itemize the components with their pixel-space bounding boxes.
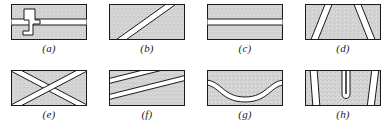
figure-row-top: (a): [0, 0, 391, 66]
panel-h-svg: [305, 70, 381, 106]
panel-g-diagram: [207, 70, 283, 106]
figure-panel-e: (e): [0, 66, 98, 132]
panel-g-label: (g): [196, 108, 294, 121]
panel-b-diagram: [109, 4, 185, 40]
panel-f-label: (f): [98, 108, 196, 121]
panel-a-label: (a): [0, 42, 98, 55]
figure-root: (a): [0, 0, 391, 132]
figure-panel-d: (d): [294, 0, 391, 66]
panel-b-svg: [109, 4, 185, 40]
figure-panel-b: (b): [98, 0, 196, 66]
panel-e-label: (e): [0, 108, 98, 121]
panel-e-svg: [11, 70, 87, 106]
panel-c-svg: [207, 4, 283, 40]
figure-panel-a: (a): [0, 0, 98, 66]
figure-panel-f: (f): [98, 66, 196, 132]
panel-e-diagram: [11, 70, 87, 106]
panel-a-diagram: [11, 4, 87, 40]
figure-row-bottom: (e): [0, 66, 391, 132]
panel-a-svg: [11, 4, 87, 40]
panel-d-diagram: [305, 4, 381, 40]
panel-c-label: (c): [196, 42, 294, 55]
figure-panel-g: (g): [196, 66, 294, 132]
panel-b-label: (b): [98, 42, 196, 55]
panel-g-svg: [207, 70, 283, 106]
figure-panel-c: (c): [196, 0, 294, 66]
panel-f-diagram: [109, 70, 185, 106]
panel-d-label: (d): [294, 42, 391, 55]
panel-h-label: (h): [294, 108, 391, 121]
figure-panel-h: (h): [294, 66, 391, 132]
panel-c-diagram: [207, 4, 283, 40]
panel-f-svg: [109, 70, 185, 106]
panel-h-diagram: [305, 70, 381, 106]
panel-d-svg: [305, 4, 381, 40]
